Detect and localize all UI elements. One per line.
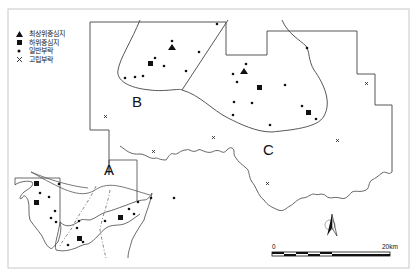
- top-center-markers: [168, 40, 248, 74]
- triangle-icon: [14, 31, 24, 37]
- southern-boundary: [120, 146, 392, 211]
- village-markers: [39, 23, 318, 247]
- isolated-village-markers: [104, 82, 368, 185]
- river: [31, 172, 150, 195]
- scale-end-label: 20km: [382, 243, 398, 250]
- river-2: [31, 172, 88, 188]
- region-label-a: A: [104, 161, 114, 178]
- map-legend: 최상위중심지 하위중심지 일반부락 고립부락: [14, 30, 65, 64]
- legend-item-isolated: 고립부락: [14, 56, 65, 65]
- legend-label: 고립부락: [29, 56, 53, 65]
- square-icon: [14, 40, 24, 45]
- dashed-boundary-2: [100, 190, 110, 258]
- legend-item-top-center: 최상위중심지: [14, 30, 65, 39]
- legend-label: 일반부락: [29, 47, 53, 56]
- scale-bar: [272, 252, 390, 256]
- map-frame: [8, 9, 409, 268]
- north-arrow-icon: [325, 214, 337, 236]
- region-label-c: C: [263, 141, 274, 158]
- region-c-boundary: [182, 20, 327, 132]
- legend-label: 최상위중심지: [29, 30, 65, 39]
- region-b-boundary: [118, 20, 228, 91]
- legend-item-village: 일반부락: [14, 47, 65, 56]
- region-label-b: B: [132, 93, 142, 110]
- cross-icon: [14, 57, 24, 62]
- scale-start-label: 0: [272, 243, 276, 250]
- legend-label: 하위중심지: [29, 39, 59, 48]
- legend-item-lower-center: 하위중심지: [14, 39, 65, 48]
- dot-icon: [14, 49, 24, 53]
